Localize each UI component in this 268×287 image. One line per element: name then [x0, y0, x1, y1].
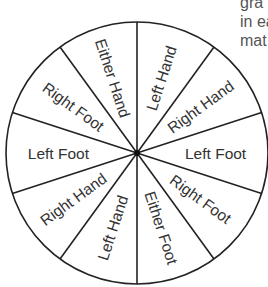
- sector-label-left-foot: Left Foot: [28, 145, 90, 162]
- center-pin: [134, 150, 140, 156]
- spinner-wheel: Left Hand Right Hand Left Foot Right Foo…: [0, 0, 268, 287]
- sector-label-left-foot: Left Foot: [185, 145, 247, 162]
